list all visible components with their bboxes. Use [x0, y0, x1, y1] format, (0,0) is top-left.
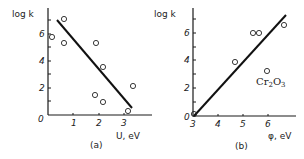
ytick-a-2: 2 [39, 83, 45, 93]
caption-a: (a) [90, 140, 103, 150]
ytick-b-4: 4 [184, 55, 190, 65]
figure: 6 4 2 0 1 2 3 log k U, eV (a) [0, 0, 304, 159]
ytick-b-6: 6 [184, 28, 190, 38]
xtick-b-4: 4 [215, 119, 221, 129]
chart-a: 6 4 2 0 1 2 3 log k U, eV (a) [12, 8, 152, 150]
xtick-a-2: 2 [96, 118, 102, 128]
data-points-a [49, 16, 135, 113]
origin-a: 0 [38, 114, 44, 124]
fit-line-b [194, 15, 286, 116]
xlabel-b: φ, eV [268, 131, 292, 141]
chart-b: 6 4 2 0 3 4 5 6 log k φ, eV (b) Cr2O3 [154, 8, 296, 151]
caption-b: (b) [235, 141, 248, 151]
ytick-a-4: 4 [39, 56, 45, 66]
xlabel-a: U, eV [116, 131, 141, 141]
ytick-a-6: 6 [39, 29, 45, 39]
ylabel-a: log k [12, 9, 35, 19]
ylabel-b: log k [154, 9, 177, 19]
xtick-a-3: 3 [121, 118, 127, 128]
fit-line-a [57, 20, 132, 108]
xtick-b-5: 5 [240, 119, 246, 129]
xtick-b-3: 3 [190, 119, 196, 129]
xtick-b-6: 6 [265, 119, 271, 129]
xtick-a-1: 1 [71, 118, 77, 128]
ytick-b-2: 2 [184, 83, 190, 93]
annotation-cr2o3: Cr2O3 [256, 76, 286, 89]
